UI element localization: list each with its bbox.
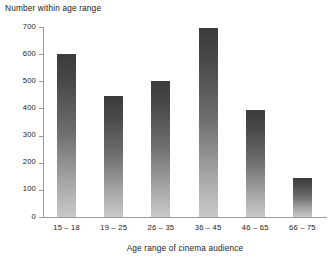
x-axis-category-label: 15 – 18 (43, 223, 90, 232)
chart-title: Number within age range (5, 3, 101, 13)
y-axis-tick-label: 0 (32, 212, 36, 221)
bar (246, 110, 265, 217)
y-axis-tick-label: 700 (23, 22, 36, 31)
y-axis-tick-label: 400 (23, 103, 36, 112)
bar (199, 28, 218, 217)
bar (57, 54, 76, 217)
x-axis-category-label: 19 – 25 (90, 223, 137, 232)
bar (104, 96, 123, 217)
bar (293, 178, 312, 217)
x-axis-line (43, 217, 327, 218)
y-axis-tick-label: 300 (23, 130, 36, 139)
x-axis-category-label: 46 – 65 (232, 223, 279, 232)
y-axis-tick-label: 500 (23, 76, 36, 85)
bar-chart: Number within age range 0100200300400500… (0, 0, 333, 262)
x-axis-title: Age range of cinema audience (43, 243, 327, 253)
x-axis-category-label: 26 – 35 (137, 223, 184, 232)
plot-area (43, 27, 326, 217)
y-axis-tick-label: 100 (23, 184, 36, 193)
y-axis-tick-label: 200 (23, 157, 36, 166)
x-axis-category-label: 66 – 75 (279, 223, 326, 232)
y-axis-tick-mark (39, 217, 43, 218)
y-axis-tick-label: 600 (23, 49, 36, 58)
bar (151, 81, 170, 217)
x-axis-category-label: 36 – 45 (185, 223, 232, 232)
